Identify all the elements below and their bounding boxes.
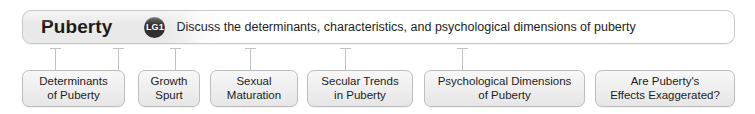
connector-line — [55, 48, 56, 70]
topic-box-label: SexualMaturation — [227, 75, 281, 102]
topic-box-label: GrowthSpurt — [150, 75, 187, 102]
topic-box[interactable]: Determinantsof Puberty — [22, 70, 125, 107]
topic-box-label: Psychological Dimensionsof Puberty — [438, 75, 572, 102]
topic-box[interactable]: Psychological Dimensionsof Puberty — [424, 70, 585, 107]
connector-line — [462, 48, 463, 70]
connector-line — [250, 48, 251, 70]
learning-objective-text: Discuss the determinants, characteristic… — [176, 20, 635, 34]
topic-box[interactable]: Are Puberty'sEffects Exaggerated? — [595, 70, 735, 107]
topic-box[interactable]: Secular Trendsin Puberty — [307, 70, 413, 107]
page-title: Puberty — [41, 16, 112, 38]
connector-line — [118, 48, 119, 70]
topic-box[interactable]: GrowthSpurt — [138, 70, 200, 107]
topic-box-label: Secular Trendsin Puberty — [321, 75, 398, 102]
learning-goal-header-bar: Puberty LG1 Discuss the determinants, ch… — [22, 10, 735, 44]
connector-line — [175, 48, 176, 70]
learning-goal-diagram: Puberty LG1 Discuss the determinants, ch… — [0, 0, 755, 114]
learning-goal-badge-icon: LG1 — [144, 17, 165, 38]
connector-line — [345, 48, 346, 70]
topic-box-label: Are Puberty'sEffects Exaggerated? — [610, 75, 720, 102]
topic-box-label: Determinantsof Puberty — [39, 75, 107, 102]
topic-box[interactable]: SexualMaturation — [210, 70, 298, 107]
